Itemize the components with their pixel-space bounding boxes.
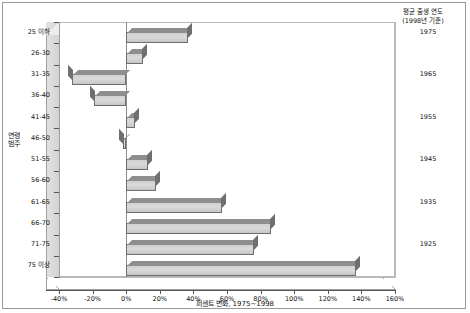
chart-root: 25 이하26-3031-3536-4041-4546-5051-5556-60… — [0, 0, 470, 313]
bar — [126, 53, 143, 64]
y-axis-tick — [54, 43, 59, 44]
bar-top-face — [127, 240, 258, 245]
y-axis-tick — [54, 22, 59, 23]
plot-floor-back-edge — [59, 277, 396, 278]
birth-year-column-subtitle: (1998년 기준) — [378, 17, 468, 26]
bar — [126, 244, 254, 255]
bar-top-face — [127, 219, 275, 224]
plot-floor-left-diagonal — [46, 277, 60, 290]
y-axis-tick — [54, 107, 59, 108]
bar — [126, 32, 188, 43]
y-axis-label: 31-35 — [31, 71, 50, 78]
y-axis-label: 51-55 — [31, 156, 50, 163]
bar — [126, 202, 222, 213]
bar — [126, 180, 156, 191]
x-axis-line — [46, 290, 396, 291]
bar-top-face — [73, 70, 130, 75]
birth-year-column-title: 평균 출생 연도 — [378, 8, 468, 17]
bar — [72, 74, 126, 85]
bar — [126, 117, 134, 128]
y-axis-label: 66-70 — [31, 220, 50, 227]
bar — [126, 265, 356, 276]
birth-year-label: 1935 — [398, 199, 458, 206]
bar-side-face — [221, 192, 226, 208]
y-axis-tick — [54, 128, 59, 129]
birth-year-label: 1945 — [398, 156, 458, 163]
y-axis-label: 61-65 — [31, 199, 50, 206]
y-axis-tick — [54, 150, 59, 151]
y-axis-tick — [54, 256, 59, 257]
bar-top-face — [127, 198, 226, 203]
bar-side-face — [355, 256, 360, 272]
plot-floor-right-diagonal — [382, 277, 396, 290]
y-axis-label: 56-60 — [31, 177, 50, 184]
bar-side-face — [134, 107, 139, 123]
y-axis-label: 26-30 — [31, 50, 50, 57]
bar-side-face — [90, 86, 95, 102]
bar — [123, 138, 126, 149]
y-axis-label: 36-40 — [31, 92, 50, 99]
y-axis-label: 75 이상 — [28, 262, 50, 269]
birth-year-label: 1925 — [398, 241, 458, 248]
y-axis-label: 25 이하 — [28, 29, 50, 36]
y-axis-title: 연령 범주 — [8, 132, 20, 148]
bar-side-face — [187, 22, 192, 38]
birth-year-label: 1975 — [398, 29, 458, 36]
y-axis-tick — [54, 65, 59, 66]
x-axis: -40%-20%0%20%40%60%80%100%120%140%160% — [46, 290, 396, 291]
birth-year-label: 1955 — [398, 114, 458, 121]
bar-side-face — [147, 150, 152, 166]
plot-area: 25 이하26-3031-3536-4041-4546-5051-5556-60… — [59, 22, 395, 277]
bar-side-face — [253, 235, 258, 251]
y-axis-tick — [54, 213, 59, 214]
bar — [126, 223, 270, 234]
y-axis-label: 41-45 — [31, 114, 50, 121]
y-axis-tick — [54, 86, 59, 87]
bar-top-face — [95, 91, 130, 96]
bar-side-face — [119, 129, 124, 145]
y-axis-tick — [54, 277, 59, 278]
bar — [126, 159, 148, 170]
y-axis-tick — [54, 171, 59, 172]
y-axis-label: 71-75 — [31, 241, 50, 248]
x-axis-title: 퍼센트 변화, 1975~1998 — [0, 298, 470, 308]
bar — [94, 95, 126, 106]
y-axis-label: 46-50 — [31, 135, 50, 142]
birth-year-column-header: 평균 출생 연도 (1998년 기준) — [378, 8, 468, 26]
bar-top-face — [127, 28, 192, 33]
bar-side-face — [68, 65, 73, 81]
plot-right-edge — [395, 22, 396, 278]
bar-top-face — [127, 261, 360, 266]
y-axis-tick — [54, 192, 59, 193]
birth-year-label: 1965 — [398, 71, 458, 78]
bar-side-face — [142, 44, 147, 60]
y-axis-tick — [54, 235, 59, 236]
bar-side-face — [270, 214, 275, 230]
bar-side-face — [155, 171, 160, 187]
